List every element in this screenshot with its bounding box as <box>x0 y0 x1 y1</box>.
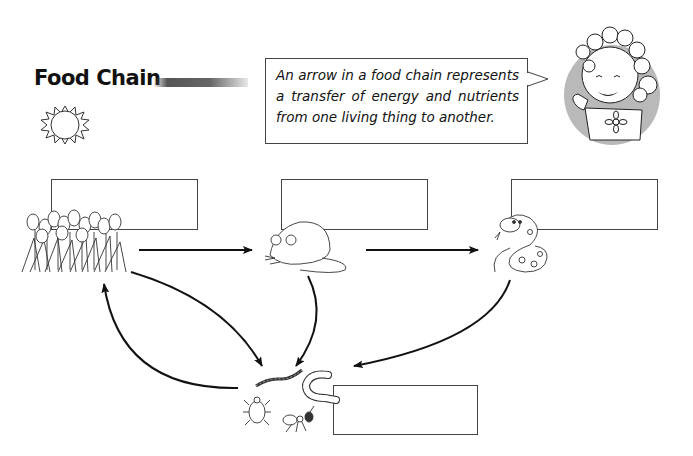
arrow-mouse-to-decomposers <box>296 276 317 366</box>
arrow-decomposers-to-flowers <box>104 284 238 388</box>
grub-icon <box>306 374 336 400</box>
teacher-girl-icon <box>526 27 660 145</box>
earthworm-icon <box>256 370 302 386</box>
beetle-icon <box>243 397 271 425</box>
sun-icon <box>41 106 89 144</box>
arrow-flowers-to-decomposers <box>131 272 262 366</box>
ant-icon <box>283 406 314 432</box>
snake-icon <box>494 215 547 272</box>
diagram-canvas <box>0 0 693 456</box>
mouse-icon <box>265 222 346 273</box>
arrow-snake-to-decomposers <box>354 280 510 366</box>
tulips-icon <box>22 210 126 272</box>
